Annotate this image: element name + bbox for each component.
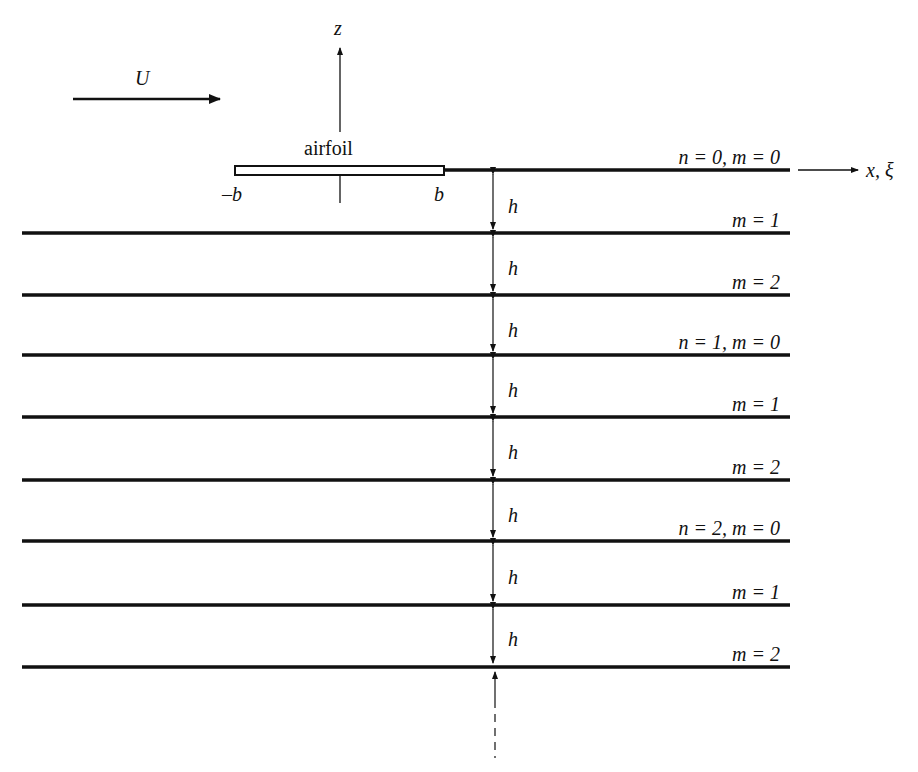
line-label-m1: m = 1: [732, 582, 780, 602]
line-label-m1: m = 1: [732, 210, 780, 230]
spacing-label: h: [508, 567, 518, 587]
spacing-label: h: [508, 629, 518, 649]
line-label-n0-m0: n = 0, m = 0: [679, 147, 780, 167]
airfoil-label: airfoil: [304, 138, 353, 158]
airfoil-right-edge-label: b: [434, 184, 444, 204]
cascade-lines: [22, 233, 790, 667]
freestream-label: U: [135, 68, 149, 88]
line-label-m2: m = 2: [732, 457, 780, 477]
spacing-label: h: [508, 320, 518, 340]
diagram-canvas: [0, 0, 918, 772]
line-label-m1: m = 1: [732, 394, 780, 414]
spacing-label: h: [508, 196, 518, 216]
airfoil-left-edge-label: –b: [222, 184, 242, 204]
x-axis-label: x, ξ: [866, 160, 893, 180]
spacing-label: h: [508, 258, 518, 278]
spacing-label: h: [508, 505, 518, 525]
airfoil-plate: [235, 166, 444, 175]
line-label-n1-m0: n = 1, m = 0: [679, 332, 780, 352]
spacing-label: h: [508, 442, 518, 462]
spacing-label: h: [508, 380, 518, 400]
line-label-n2-m0: n = 2, m = 0: [679, 518, 780, 538]
line-label-m2: m = 2: [732, 644, 780, 664]
z-axis-label: z: [334, 18, 342, 38]
line-label-m2: m = 2: [732, 272, 780, 292]
